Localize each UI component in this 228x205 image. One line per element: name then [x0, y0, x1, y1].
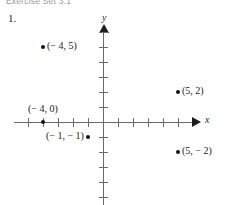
data-point: [176, 150, 180, 154]
x-axis-label: x: [205, 114, 209, 125]
y-axis-tick: [99, 137, 108, 138]
x-axis-tick: [73, 118, 74, 127]
data-point-label: (− 4, 0): [28, 103, 58, 114]
data-point: [41, 120, 45, 124]
x-axis-tick: [88, 118, 89, 127]
exercise-page: Exercise Set 3.1 1. x y (− 4, 5)(5, 2)(−…: [0, 0, 228, 205]
y-axis-tick: [99, 107, 108, 108]
y-axis-tick: [99, 197, 108, 198]
y-axis-tick: [99, 32, 108, 33]
y-axis: [103, 30, 104, 205]
y-axis-tick: [99, 77, 108, 78]
x-axis-tick: [148, 118, 149, 127]
data-point: [41, 45, 45, 49]
y-axis-label: y: [102, 12, 106, 23]
data-point-label: (− 4, 5): [47, 40, 77, 51]
x-axis-tick: [118, 118, 119, 127]
data-point-label: (5, − 2): [182, 145, 212, 156]
coordinate-plane: x y (− 4, 5)(5, 2)(− 4, 0)(− 1, − 1)(5, …: [0, 0, 228, 205]
x-axis-tick: [133, 118, 134, 127]
y-axis-tick: [99, 47, 108, 48]
y-axis-tick: [99, 62, 108, 63]
x-axis-tick: [28, 118, 29, 127]
data-point-label: (5, 2): [182, 85, 204, 96]
x-axis-arrow-icon: [192, 117, 201, 127]
y-axis-tick: [99, 167, 108, 168]
y-axis-tick: [99, 92, 108, 93]
y-axis-tick: [99, 152, 108, 153]
data-point: [176, 90, 180, 94]
data-point-label: (− 1, − 1): [46, 130, 84, 141]
x-axis-tick: [163, 118, 164, 127]
x-axis-tick: [178, 118, 179, 127]
x-axis-tick: [58, 118, 59, 127]
data-point: [86, 135, 90, 139]
y-axis-tick: [99, 182, 108, 183]
